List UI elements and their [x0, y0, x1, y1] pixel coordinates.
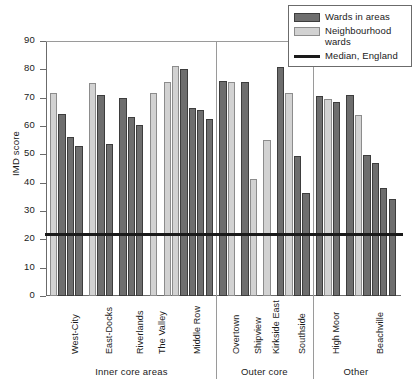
bar	[164, 82, 171, 296]
x-axis-category-label: The Valley	[157, 311, 167, 354]
bar	[285, 93, 292, 296]
bar	[372, 163, 379, 296]
median-england-reference-line	[45, 233, 403, 236]
bar	[189, 108, 196, 296]
bar	[89, 83, 96, 296]
bar	[97, 95, 104, 296]
legend-label-wards-in-areas: Wards in areas	[325, 11, 390, 22]
imd-score-bar-chart: IMD score 0102030405060708090 West-CityE…	[0, 0, 417, 384]
bar	[219, 81, 226, 296]
bar	[263, 140, 270, 296]
y-axis-tick-label: 80	[24, 62, 35, 73]
bar	[277, 67, 284, 296]
bar	[50, 93, 57, 296]
legend-item-wards-in-areas: Wards in areas	[294, 11, 406, 22]
bar	[346, 95, 353, 296]
legend-label-neighbourhood-wards-line2: wards	[325, 36, 351, 47]
legend-swatch-wards-in-areas	[294, 13, 320, 22]
bar	[389, 199, 396, 296]
bar	[180, 69, 187, 296]
legend-swatch-median-england	[294, 52, 320, 61]
x-axis-category-label: Riverlands	[135, 310, 145, 354]
bar	[228, 82, 235, 296]
y-axis-tick-label: 50	[24, 147, 35, 158]
bar	[197, 110, 204, 296]
bar	[67, 137, 74, 296]
bar	[355, 115, 362, 296]
y-axis-tick-label: 0	[30, 289, 35, 300]
bar	[136, 125, 143, 296]
y-axis-tick-label: 30	[24, 204, 35, 215]
x-axis-group-label: Other	[296, 366, 416, 377]
x-axis-category-label: West-City	[70, 314, 80, 354]
bar	[241, 82, 248, 296]
bar	[150, 93, 157, 296]
y-axis-tick-label: 10	[24, 261, 35, 272]
x-axis-category-label: East-Docks	[104, 307, 114, 354]
x-axis-category-label: High Moor	[331, 312, 341, 354]
bar	[128, 117, 135, 296]
bar	[324, 99, 331, 296]
legend-item-neighbourhood-wards: Neighbourhood wards	[294, 25, 406, 47]
bar	[206, 119, 213, 296]
bar	[250, 179, 257, 296]
bar	[106, 144, 113, 296]
group-separator	[216, 41, 217, 379]
y-axis-tick-label: 90	[24, 34, 35, 45]
bar	[75, 146, 82, 296]
y-axis-tick-label: 60	[24, 119, 35, 130]
bar	[294, 156, 301, 296]
bar	[172, 66, 179, 296]
x-axis-group-label: Inner core areas	[71, 366, 191, 377]
y-axis-tick-label: 70	[24, 91, 35, 102]
bar	[333, 102, 340, 296]
legend-label-median-england: Median, England	[325, 50, 398, 61]
x-axis-category-label: Beachville	[375, 312, 385, 354]
bars-layer	[46, 41, 401, 296]
legend-swatch-neighbourhood-wards	[294, 27, 320, 36]
bar	[119, 98, 126, 296]
y-axis-tick-label: 20	[24, 232, 35, 243]
plot-area: 0102030405060708090	[46, 41, 401, 296]
legend-item-median-england: Median, England	[294, 50, 406, 61]
y-axis-title: IMD score	[10, 109, 21, 199]
bar	[380, 188, 387, 296]
bar	[302, 193, 309, 296]
bar	[363, 155, 370, 296]
chart-legend: Wards in areas Neighbourhood wards Media…	[288, 5, 412, 67]
y-axis-tick-mark	[40, 296, 46, 297]
bar	[58, 114, 65, 296]
x-axis-category-label: Southside	[297, 313, 307, 354]
x-axis-category-label: Kirkside East	[271, 300, 281, 354]
group-separator	[313, 41, 314, 379]
x-axis-category-label: Shipview	[253, 317, 263, 354]
x-axis-category-label: Middle Row	[192, 306, 202, 354]
legend-label-neighbourhood-wards-line1: Neighbourhood	[325, 25, 391, 36]
legend-label-neighbourhood-wards: Neighbourhood wards	[325, 25, 391, 47]
y-axis-tick-label: 40	[24, 176, 35, 187]
x-axis-category-label: Overtown	[231, 315, 241, 354]
bar	[316, 96, 323, 296]
